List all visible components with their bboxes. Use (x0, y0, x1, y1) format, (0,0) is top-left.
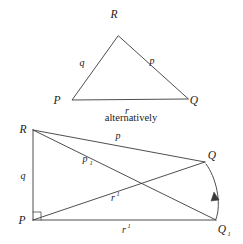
top-vertex-label-R: R (109, 8, 117, 20)
svg-text:p: p (82, 153, 88, 164)
top-side-label-q: q (80, 57, 85, 68)
bottom-side-label-p1: p 1 (82, 153, 93, 166)
top-vertex-label-P: P (52, 94, 60, 106)
arc-Q1-to-Q (206, 164, 218, 219)
svg-text:r: r (111, 192, 115, 203)
bottom-vertex-label-Q: Q (208, 149, 217, 161)
bottom-vertex-label-Q1: Q 1 (218, 223, 231, 237)
geometry-figure: R P Q q p r alternatively (0, 0, 243, 244)
bottom-side-label-p: p (115, 130, 121, 141)
top-triangle-group: R P Q q p r (52, 8, 198, 116)
svg-text:r: r (122, 224, 126, 235)
bottom-side-label-q: q (21, 170, 26, 181)
segment-R-Q1 (33, 130, 216, 220)
svg-text:1: 1 (116, 190, 119, 197)
figure-canvas: R P Q q p r alternatively (0, 0, 243, 244)
top-vertex-label-Q: Q (190, 94, 199, 106)
svg-text:1: 1 (127, 222, 130, 229)
bottom-vertex-label-R: R (18, 123, 26, 135)
svg-text:Q: Q (218, 223, 227, 235)
svg-text:1: 1 (89, 159, 92, 166)
bottom-side-label-r1-base: r 1 (122, 222, 131, 235)
caption-alternatively: alternatively (105, 112, 158, 123)
bottom-figure-group: R P Q Q 1 p p 1 q r 1 r 1 (17, 123, 230, 237)
svg-text:1: 1 (227, 230, 230, 237)
top-side-label-p: p (149, 55, 155, 66)
bottom-vertex-label-P: P (17, 214, 25, 226)
triangle-outline-PQR (72, 36, 188, 100)
